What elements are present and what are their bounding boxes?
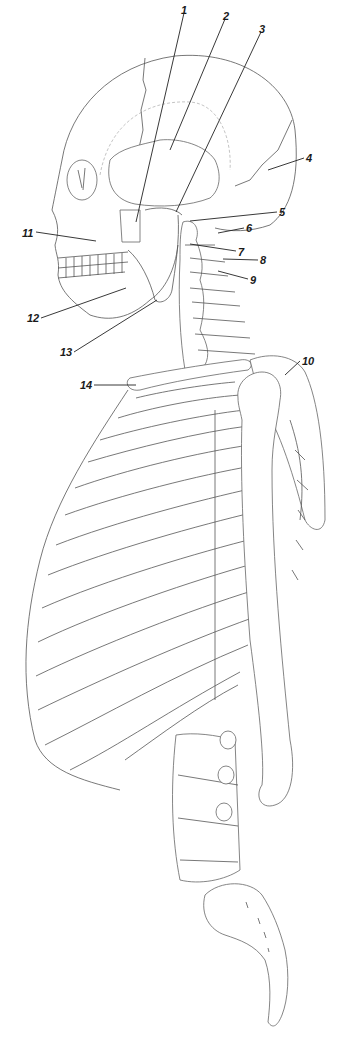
label-12: 12 <box>27 313 39 324</box>
label-8: 8 <box>260 255 266 266</box>
label-5: 5 <box>279 207 285 218</box>
label-11: 11 <box>22 228 33 239</box>
skeleton-drawing <box>0 0 344 1048</box>
skull <box>52 55 296 318</box>
label-2: 2 <box>223 11 229 22</box>
cervical-spine <box>179 221 255 370</box>
rib-cage <box>26 382 256 790</box>
shoulder <box>127 356 325 530</box>
label-14: 14 <box>80 380 92 391</box>
label-6: 6 <box>246 223 252 234</box>
label-7: 7 <box>238 247 244 258</box>
label-1: 1 <box>181 5 187 16</box>
label-13: 13 <box>60 347 72 358</box>
label-3: 3 <box>259 24 265 35</box>
label-4: 4 <box>306 153 312 164</box>
skeleton-diagram: 1 2 3 4 5 6 7 8 9 10 11 12 13 14 <box>0 0 344 1048</box>
label-9: 9 <box>250 275 256 286</box>
label-10: 10 <box>302 356 314 367</box>
